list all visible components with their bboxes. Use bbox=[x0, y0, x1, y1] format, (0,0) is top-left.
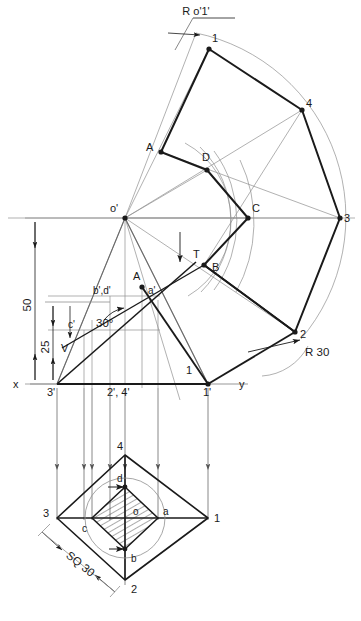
label-tv-point-d: d bbox=[117, 473, 123, 484]
dot-a-prime bbox=[139, 284, 144, 289]
label-r30: R 30 bbox=[305, 346, 329, 358]
label-tv-point-o: o bbox=[133, 506, 139, 517]
label-point-a-front: A bbox=[133, 270, 141, 282]
label-point-2-4-prime: 2', 4' bbox=[107, 386, 130, 398]
dot-dev-1 bbox=[206, 46, 211, 51]
label-tv-point-a: a bbox=[163, 506, 169, 517]
label-tv-point-2: 2 bbox=[131, 583, 137, 595]
dot-dev-2 bbox=[292, 329, 297, 334]
label-tv-point-1: 1 bbox=[214, 512, 220, 524]
label-point-c-prime: c' bbox=[68, 319, 75, 330]
label-r-o1prime: R o'1' bbox=[182, 5, 209, 17]
label-tv-point-c: c bbox=[82, 523, 87, 534]
dot-dev-4 bbox=[299, 107, 304, 112]
label-dev-point-1: 1 bbox=[212, 32, 218, 44]
label-point-bd-prime: b',d' bbox=[93, 285, 111, 296]
label-tv-point-b: b bbox=[131, 553, 137, 564]
label-apex-o-prime: o' bbox=[110, 202, 118, 214]
dot-dev-B bbox=[201, 262, 206, 267]
label-dev-point-A: A bbox=[146, 141, 154, 153]
label-dev-point-4: 4 bbox=[306, 97, 312, 109]
label-dev-point-B: B bbox=[212, 261, 219, 273]
label-tv-point-4: 4 bbox=[117, 440, 123, 452]
dot-dev-A bbox=[158, 149, 163, 154]
label-dim-25: 25 bbox=[39, 341, 51, 354]
label-vertical-trace: V bbox=[61, 342, 69, 354]
paper-background bbox=[0, 0, 361, 621]
dot-tv-d bbox=[123, 485, 128, 490]
dot-dev-C bbox=[245, 215, 250, 220]
dot-tv-b bbox=[123, 547, 128, 552]
label-dev-point-3: 3 bbox=[344, 212, 350, 224]
label-dim-50: 50 bbox=[21, 299, 33, 312]
dot-dev-3 bbox=[337, 215, 342, 220]
engineering-drawing-svg: R o'1' 1 4 3 2 A D C B T o' 3' 2', 4' 1'… bbox=[0, 0, 361, 621]
dot-dev-D bbox=[204, 167, 209, 172]
dot-o-prime bbox=[122, 215, 127, 220]
label-tv-point-3: 3 bbox=[43, 507, 49, 519]
label-dev-point-C: C bbox=[252, 202, 260, 214]
label-point-3-prime: 3' bbox=[47, 386, 55, 398]
label-axis-x: x bbox=[13, 378, 19, 390]
label-point-a-prime: a' bbox=[148, 285, 156, 296]
drawing-canvas: R o'1' 1 4 3 2 A D C B T o' 3' 2', 4' 1'… bbox=[0, 0, 361, 621]
label-angle-30: 30° bbox=[96, 317, 113, 329]
label-axis-y: y bbox=[239, 378, 245, 390]
label-point-1-front: 1 bbox=[186, 364, 192, 376]
label-dev-point-D: D bbox=[202, 151, 210, 163]
label-dev-point-T: T bbox=[193, 248, 200, 260]
label-dev-point-2: 2 bbox=[300, 328, 306, 340]
label-point-1-prime: 1' bbox=[203, 386, 211, 398]
